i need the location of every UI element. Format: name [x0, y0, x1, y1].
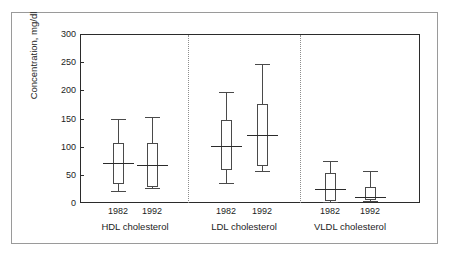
figure-root: Concentration, mg/dl 050100150200250300 …	[0, 0, 452, 257]
whisker-upper	[118, 119, 119, 143]
whisker-cap-lower	[145, 188, 160, 189]
x-tick-label-year: 1982	[216, 207, 236, 216]
whisker-lower	[118, 184, 119, 191]
whisker-cap-upper	[145, 117, 160, 118]
x-group-label: HDL cholesterol	[101, 222, 168, 232]
whisker-upper	[152, 117, 153, 142]
median-line	[355, 197, 386, 198]
whisker-cap-upper	[111, 119, 126, 120]
whisker-upper	[226, 92, 227, 120]
group-separator-line	[300, 35, 301, 203]
y-tick-label: 100	[61, 142, 76, 151]
whisker-upper	[330, 161, 331, 172]
y-axis-tick-labels: 050100150200250300	[52, 0, 76, 257]
whisker-cap-lower	[323, 202, 338, 203]
y-tick-label: 150	[61, 114, 76, 123]
y-tick-label: 200	[61, 86, 76, 95]
x-group-label: LDL cholesterol	[211, 222, 277, 232]
y-tick-mark	[80, 90, 84, 91]
box-whisker	[226, 0, 227, 257]
y-tick-mark	[80, 119, 84, 120]
group-separator-line	[188, 35, 189, 203]
y-tick-label: 0	[71, 199, 76, 208]
x-tick-label-year: 1982	[108, 207, 128, 216]
x-tick-label-year: 1992	[252, 207, 272, 216]
median-line	[211, 146, 242, 147]
plot-area	[80, 34, 420, 203]
y-tick-label: 50	[66, 170, 76, 179]
whisker-lower	[226, 170, 227, 183]
median-line	[137, 165, 168, 166]
whisker-cap-upper	[323, 161, 338, 162]
whisker-cap-lower	[363, 201, 378, 202]
median-line	[247, 135, 278, 136]
box-whisker	[152, 0, 153, 257]
whisker-cap-upper	[219, 92, 234, 93]
y-tick-mark	[80, 147, 84, 148]
median-line	[103, 163, 134, 164]
whisker-upper	[262, 64, 263, 105]
y-tick-mark	[80, 62, 84, 63]
whisker-upper	[370, 171, 371, 187]
whisker-cap-upper	[255, 64, 270, 65]
box-iqr	[325, 173, 336, 201]
box-whisker	[118, 0, 119, 257]
y-tick-label: 300	[61, 30, 76, 39]
whisker-cap-lower	[111, 191, 126, 192]
whisker-cap-lower	[255, 171, 270, 172]
whisker-cap-upper	[363, 171, 378, 172]
median-line	[315, 189, 346, 190]
whisker-cap-lower	[219, 183, 234, 184]
x-tick-label-year: 1982	[320, 207, 340, 216]
box-whisker	[330, 0, 331, 257]
x-tick-label-year: 1992	[360, 207, 380, 216]
y-tick-mark	[80, 175, 84, 176]
x-group-label: VLDL cholesterol	[314, 222, 386, 232]
box-whisker	[262, 0, 263, 257]
x-tick-label-year: 1992	[142, 207, 162, 216]
box-whisker	[370, 0, 371, 257]
y-tick-label: 250	[61, 58, 76, 67]
